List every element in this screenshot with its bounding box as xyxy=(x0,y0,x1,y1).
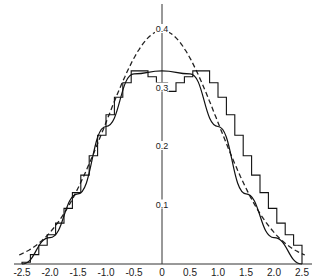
x-tick-label: -2.5 xyxy=(13,267,31,277)
x-tick-label: -1.0 xyxy=(97,267,115,277)
y-tick-label: 0.2 xyxy=(156,141,169,151)
tick-labels: -2.5-2.0-1.5-1.0-0.500.51.01.52.02.50.10… xyxy=(13,24,309,277)
x-tick-label: -0.5 xyxy=(125,267,143,277)
x-tick-label: 1.5 xyxy=(239,267,253,277)
y-tick-label: 0.1 xyxy=(156,200,169,210)
y-tick-label: 0.4 xyxy=(156,24,169,34)
x-tick-label: 0.5 xyxy=(183,267,197,277)
x-tick-label: -2.0 xyxy=(41,267,59,277)
x-tick-label: 2.0 xyxy=(267,267,281,277)
x-tick-label: 2.5 xyxy=(295,267,309,277)
x-tick-label: 0 xyxy=(159,267,165,277)
chart-canvas: -2.5-2.0-1.5-1.0-0.500.51.01.52.02.50.10… xyxy=(0,0,327,277)
y-tick-label: 0.3 xyxy=(156,83,169,93)
x-tick-label: 1.0 xyxy=(211,267,225,277)
x-tick-label: -1.5 xyxy=(69,267,87,277)
